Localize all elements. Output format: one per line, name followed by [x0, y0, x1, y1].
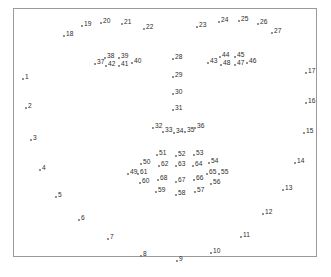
point-marker-icon — [174, 180, 177, 183]
point-label: 2 — [28, 103, 32, 110]
plot-frame: 1234567891011121314151617181920212223242… — [13, 8, 317, 257]
point-marker-icon — [237, 19, 240, 22]
point-label: 55 — [221, 169, 229, 176]
point-label: 38 — [107, 53, 115, 60]
point-marker-icon — [219, 63, 222, 66]
point-label: 65 — [209, 169, 217, 176]
point-marker-icon — [24, 106, 27, 109]
point-label: 57 — [197, 187, 205, 194]
point-marker-icon — [62, 34, 65, 37]
point-label: 9 — [179, 256, 183, 263]
point-label: 28 — [175, 54, 183, 61]
point-marker-icon — [151, 126, 154, 129]
point-marker-icon — [233, 55, 236, 58]
point-label: 31 — [175, 105, 183, 112]
point-marker-icon — [155, 153, 158, 156]
point-marker-icon — [245, 61, 248, 64]
point-label: 59 — [158, 187, 166, 194]
point-marker-icon — [206, 61, 209, 64]
point-marker-icon — [302, 131, 305, 134]
point-label: 32 — [155, 123, 163, 130]
point-label: 53 — [196, 150, 204, 157]
point-marker-icon — [205, 172, 208, 175]
point-label: 42 — [108, 61, 116, 68]
point-label: 67 — [178, 177, 186, 184]
point-marker-icon — [136, 172, 139, 175]
point-marker-icon — [171, 92, 174, 95]
point-label: 43 — [210, 58, 218, 65]
point-marker-icon — [130, 61, 133, 64]
point-marker-icon — [142, 27, 145, 30]
point-label: 60 — [142, 178, 150, 185]
point-marker-icon — [38, 168, 41, 171]
point-marker-icon — [154, 190, 157, 193]
point-label: 22 — [146, 24, 154, 31]
point-marker-icon — [104, 64, 107, 67]
landmark-figure: 1234567891011121314151617181920212223242… — [0, 0, 331, 277]
point-marker-icon — [175, 259, 178, 262]
point-label: 63 — [178, 161, 186, 168]
point-marker-icon — [117, 64, 120, 67]
point-label: 68 — [160, 175, 168, 182]
point-marker-icon — [193, 190, 196, 193]
point-marker-icon — [120, 22, 123, 25]
point-label: 7 — [110, 234, 114, 241]
point-marker-icon — [171, 57, 174, 60]
point-marker-icon — [256, 22, 259, 25]
point-label: 47 — [237, 60, 245, 67]
point-marker-icon — [261, 212, 264, 215]
point-label: 56 — [213, 179, 221, 186]
point-label: 44 — [222, 52, 230, 59]
point-label: 23 — [199, 22, 207, 29]
point-marker-icon — [195, 25, 198, 28]
point-marker-icon — [174, 154, 177, 157]
point-marker-icon — [171, 75, 174, 78]
point-marker-icon — [80, 24, 83, 27]
point-label: 48 — [223, 60, 231, 67]
point-label: 8 — [143, 251, 147, 258]
point-label: 30 — [175, 89, 183, 96]
point-marker-icon — [161, 130, 164, 133]
point-label: 5 — [58, 192, 62, 199]
point-label: 20 — [103, 18, 111, 25]
point-marker-icon — [126, 172, 129, 175]
point-label: 25 — [241, 16, 249, 23]
point-marker-icon — [209, 182, 212, 185]
point-marker-icon — [218, 55, 221, 58]
point-marker-icon — [191, 164, 194, 167]
point-label: 54 — [211, 158, 219, 165]
point-label: 11 — [243, 232, 250, 239]
point-marker-icon — [233, 63, 236, 66]
point-marker-icon — [93, 62, 96, 65]
point-marker-icon — [281, 188, 284, 191]
point-marker-icon — [209, 251, 212, 254]
point-marker-icon — [103, 56, 106, 59]
point-label: 41 — [121, 61, 129, 68]
point-marker-icon — [156, 178, 159, 181]
point-marker-icon — [21, 77, 24, 80]
point-marker-icon — [106, 237, 109, 240]
point-marker-icon — [174, 193, 177, 196]
point-label: 16 — [308, 98, 316, 105]
point-marker-icon — [293, 161, 296, 164]
point-marker-icon — [171, 108, 174, 111]
point-marker-icon — [217, 172, 220, 175]
point-marker-icon — [77, 218, 80, 221]
point-label: 4 — [42, 165, 46, 172]
point-label: 45 — [237, 52, 245, 59]
point-label: 24 — [221, 17, 229, 24]
point-marker-icon — [54, 195, 57, 198]
point-label: 14 — [297, 158, 305, 165]
point-label: 50 — [143, 159, 151, 166]
point-marker-icon — [139, 162, 142, 165]
point-label: 66 — [196, 175, 204, 182]
point-label: 46 — [249, 58, 257, 65]
point-marker-icon — [139, 254, 142, 257]
point-label: 12 — [265, 209, 273, 216]
point-label: 1 — [25, 74, 29, 81]
point-label: 52 — [178, 151, 186, 158]
point-marker-icon — [193, 126, 196, 129]
point-label: 13 — [285, 185, 293, 192]
point-marker-icon — [217, 20, 220, 23]
point-label: 51 — [159, 150, 167, 157]
